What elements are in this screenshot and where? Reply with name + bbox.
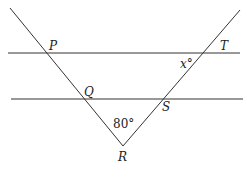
line-PR (10, 8, 123, 146)
geometry-diagram: P T x° Q S 80° R (0, 0, 247, 186)
label-T: T (220, 39, 229, 53)
line-TR (123, 10, 240, 146)
label-R: R (117, 150, 127, 164)
label-P: P (48, 39, 58, 53)
label-S: S (162, 100, 170, 114)
angle-x: x° (180, 57, 193, 71)
label-Q: Q (84, 85, 94, 99)
angle-R: 80° (113, 117, 134, 131)
